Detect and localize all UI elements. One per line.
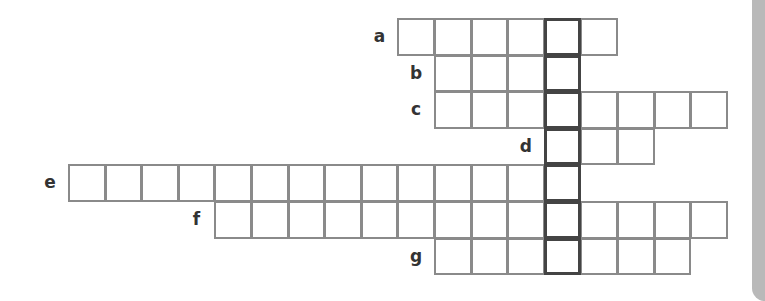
letter-cell[interactable]: [507, 238, 545, 276]
letter-cell[interactable]: [324, 201, 362, 239]
letter-cell[interactable]: [580, 91, 618, 129]
letter-cell[interactable]: [690, 91, 728, 129]
letter-cell[interactable]: [507, 201, 545, 239]
letter-cell[interactable]: [507, 18, 545, 56]
letter-cell[interactable]: [580, 128, 618, 166]
letter-cell[interactable]: [507, 91, 545, 129]
letter-cell[interactable]: [471, 55, 509, 93]
key-letter-cell[interactable]: [544, 164, 582, 202]
letter-cell[interactable]: [361, 201, 399, 239]
letter-cell[interactable]: [361, 164, 399, 202]
clue-label: a: [369, 26, 389, 46]
side-page-tab: [752, 0, 765, 301]
letter-cell[interactable]: [617, 128, 655, 166]
letter-cell[interactable]: [654, 201, 692, 239]
crossword-grid: abcdefg: [0, 0, 765, 301]
clue-label: c: [406, 99, 426, 119]
letter-cell[interactable]: [141, 164, 179, 202]
letter-cell[interactable]: [580, 18, 618, 56]
letter-cell[interactable]: [617, 201, 655, 239]
letter-cell[interactable]: [507, 164, 545, 202]
key-letter-cell[interactable]: [544, 55, 582, 93]
letter-cell[interactable]: [654, 91, 692, 129]
key-letter-cell[interactable]: [544, 18, 582, 56]
letter-cell[interactable]: [580, 201, 618, 239]
letter-cell[interactable]: [434, 18, 472, 56]
letter-cell[interactable]: [434, 201, 472, 239]
letter-cell[interactable]: [324, 164, 362, 202]
clue-label: b: [406, 63, 426, 83]
letter-cell[interactable]: [434, 238, 472, 276]
letter-cell[interactable]: [68, 164, 106, 202]
letter-cell[interactable]: [690, 201, 728, 239]
letter-cell[interactable]: [617, 91, 655, 129]
letter-cell[interactable]: [397, 18, 435, 56]
letter-cell[interactable]: [105, 164, 143, 202]
letter-cell[interactable]: [617, 238, 655, 276]
letter-cell[interactable]: [288, 164, 326, 202]
letter-cell[interactable]: [434, 55, 472, 93]
letter-cell[interactable]: [471, 164, 509, 202]
key-letter-cell[interactable]: [544, 238, 582, 276]
letter-cell[interactable]: [288, 201, 326, 239]
key-letter-cell[interactable]: [544, 91, 582, 129]
key-letter-cell[interactable]: [544, 128, 582, 166]
letter-cell[interactable]: [471, 201, 509, 239]
letter-cell[interactable]: [214, 201, 252, 239]
letter-cell[interactable]: [178, 164, 216, 202]
letter-cell[interactable]: [471, 238, 509, 276]
letter-cell[interactable]: [214, 164, 252, 202]
letter-cell[interactable]: [654, 238, 692, 276]
key-letter-cell[interactable]: [544, 201, 582, 239]
letter-cell[interactable]: [580, 238, 618, 276]
letter-cell[interactable]: [471, 91, 509, 129]
letter-cell[interactable]: [397, 164, 435, 202]
letter-cell[interactable]: [507, 55, 545, 93]
clue-label: f: [186, 209, 206, 229]
clue-label: e: [40, 172, 60, 192]
letter-cell[interactable]: [251, 164, 289, 202]
letter-cell[interactable]: [471, 18, 509, 56]
letter-cell[interactable]: [434, 164, 472, 202]
letter-cell[interactable]: [397, 201, 435, 239]
letter-cell[interactable]: [434, 91, 472, 129]
letter-cell[interactable]: [251, 201, 289, 239]
clue-label: d: [516, 136, 536, 156]
clue-label: g: [406, 246, 426, 266]
